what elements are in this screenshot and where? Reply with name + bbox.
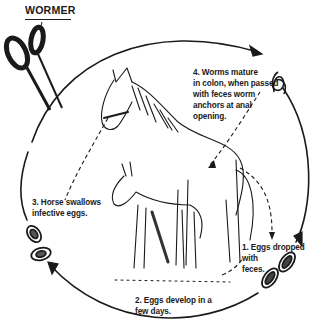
step-4-label: 4. Worms mature in colon, when passed wi…	[193, 66, 278, 121]
arrowhead-top	[250, 46, 262, 56]
cycle-arc-left	[21, 152, 28, 220]
egg-icon	[24, 223, 52, 262]
step-2-label: 2. Eggs develop in a few days.	[135, 294, 212, 316]
lifecycle-cycle-arrows	[0, 0, 324, 332]
step-3-label: 3. Horse swallows infective eggs.	[32, 196, 101, 218]
step-1-label: 1. Eggs dropped with feces.	[242, 241, 305, 274]
dashed-eggs-to-mouth	[65, 118, 108, 200]
wormer-label: WORMER	[25, 4, 75, 16]
scissors-icon	[2, 22, 62, 110]
wormer-underline	[25, 19, 71, 20]
lifecycle-diagram: WORMER 4. Worms mature in colon, when pa…	[0, 0, 324, 332]
cycle-arc-right	[283, 88, 309, 242]
